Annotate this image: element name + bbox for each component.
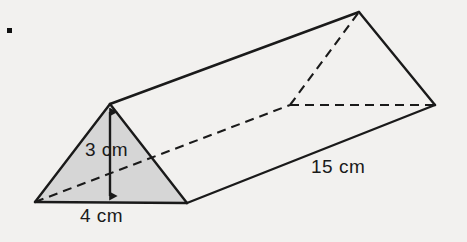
bullet-dot-icon [7,28,12,33]
edge-back-right-slant [359,12,435,105]
edge-top-ridge [110,12,359,104]
edge-front-base [35,202,187,203]
base-dimension-label: 4 cm [80,206,123,225]
height-dimension-label: 3 cm [85,140,128,159]
edge-bottom-right-long [187,105,435,203]
prism-drawing [0,0,467,242]
triangular-prism-figure: 3 cm 4 cm 15 cm [0,0,467,242]
length-dimension-label: 15 cm [311,157,365,176]
